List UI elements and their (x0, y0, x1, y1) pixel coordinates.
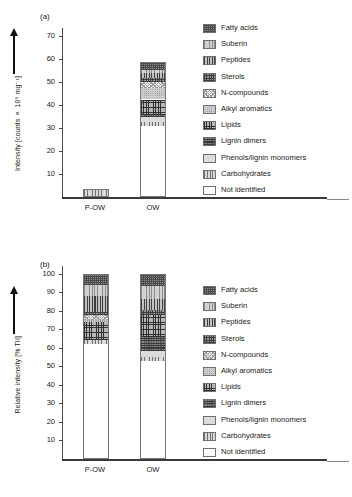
legend-swatch-lipids-icon (203, 383, 216, 392)
legend-swatch-suberin-icon (203, 302, 216, 311)
y-tick-label-b-10: 10 (29, 435, 55, 444)
legend-label-carbohydrates: Carbohydrates (221, 431, 271, 440)
legend-label-n_compounds: N-compounds (221, 88, 268, 97)
legend-label-alkyl_aromatics: Alkyl aromatics (221, 366, 272, 375)
y-tick-b-80 (59, 311, 62, 312)
y-tick-a-30 (59, 128, 62, 129)
y-tick-label-a-30: 30 (29, 123, 55, 132)
y-tick-label-a-60: 60 (29, 54, 55, 63)
legend-label-peptides: Peptides (221, 317, 251, 326)
legend-item-fatty_acids[interactable]: Fatty acids (203, 22, 349, 38)
legend-label-fatty_acids: Fatty acids (221, 23, 258, 32)
legend-a: Fatty acidsSuberinPeptidesSterolsN-compo… (203, 22, 349, 200)
x-tick-label-ow-b: OW (133, 465, 173, 474)
legend-item-lipids[interactable]: Lipids (203, 119, 349, 135)
legend-item-sterols[interactable]: Sterols (203, 71, 349, 87)
legend-b: Fatty acidsSuberinPeptidesSterolsN-compo… (203, 284, 349, 462)
legend-swatch-lignin_dimers-icon (203, 399, 216, 408)
legend-item-carbohydrates[interactable]: Carbohydrates (203, 430, 349, 446)
bar-b-p-ow[interactable] (83, 274, 109, 459)
bar-outline (83, 274, 109, 459)
legend-swatch-fatty_acids-icon (203, 24, 216, 33)
legend-label-carbohydrates: Carbohydrates (221, 169, 271, 178)
y-tick-label-a-50: 50 (29, 77, 55, 86)
legend-label-fatty_acids: Fatty acids (221, 285, 258, 294)
legend-item-n_compounds[interactable]: N-compounds (203, 349, 349, 365)
y-tick-label-a-10: 10 (29, 169, 55, 178)
y-tick-a-70 (59, 36, 62, 37)
legend-swatch-alkyl_aromatics-icon (203, 367, 216, 376)
legend-label-suberin: Suberin (221, 39, 247, 48)
y-tick-label-a-40: 40 (29, 100, 55, 109)
y-tick-b-50 (59, 366, 62, 367)
y-tick-label-a-70: 70 (29, 31, 55, 40)
legend-item-lignin_dimers[interactable]: Lignin dimers (203, 135, 349, 151)
legend-label-peptides: Peptides (221, 55, 251, 64)
legend-swatch-n_compounds-icon (203, 89, 216, 98)
y-tick-label-b-90: 90 (29, 287, 55, 296)
legend-item-suberin[interactable]: Suberin (203, 300, 349, 316)
legend-swatch-carbohydrates-icon (203, 432, 216, 441)
legend-label-sterols: Sterols (221, 334, 245, 343)
legend-item-alkyl_aromatics[interactable]: Alkyl aromatics (203, 103, 349, 119)
y-tick-label-b-80: 80 (29, 306, 55, 315)
legend-item-phenols_lignin_monomers[interactable]: Phenols/lignin monomers (203, 414, 349, 430)
legend-swatch-sterols-icon (203, 335, 216, 344)
legend-item-phenols_lignin_monomers[interactable]: Phenols/lignin monomers (203, 152, 349, 168)
y-tick-a-50 (59, 82, 62, 83)
legend-item-not_identified[interactable]: Not identified (203, 446, 349, 462)
bar-outline (140, 62, 166, 197)
legend-item-lignin_dimers[interactable]: Lignin dimers (203, 397, 349, 413)
y-tick-a-20 (59, 151, 62, 152)
legend-label-n_compounds: N-compounds (221, 350, 268, 359)
y-tick-b-70 (59, 329, 62, 330)
chart-panel-b: (b) Relative intensity [% TII] 102030405… (0, 248, 352, 497)
legend-swatch-lipids-icon (203, 121, 216, 130)
bar-outline (140, 274, 166, 459)
legend-swatch-phenols_lignin_monomers-icon (203, 154, 216, 163)
y-tick-label-b-30: 30 (29, 398, 55, 407)
bar-b-ow[interactable] (140, 274, 166, 459)
legend-swatch-not_identified-icon (203, 186, 216, 195)
y-tick-a-40 (59, 105, 62, 106)
legend-label-lignin_dimers: Lignin dimers (221, 136, 266, 145)
y-tick-b-40 (59, 385, 62, 386)
legend-swatch-carbohydrates-icon (203, 170, 216, 179)
legend-label-not_identified: Not identified (221, 447, 265, 456)
legend-item-alkyl_aromatics[interactable]: Alkyl aromatics (203, 365, 349, 381)
y-tick-a-10 (59, 174, 62, 175)
legend-item-not_identified[interactable]: Not identified (203, 184, 349, 200)
legend-label-suberin: Suberin (221, 301, 247, 310)
bar-a-p-ow[interactable] (83, 189, 109, 197)
legend-item-carbohydrates[interactable]: Carbohydrates (203, 168, 349, 184)
y-tick-label-b-50: 50 (29, 361, 55, 370)
legend-label-sterols: Sterols (221, 72, 245, 81)
y-tick-b-30 (59, 403, 62, 404)
y-tick-b-90 (59, 292, 62, 293)
y-tick-label-b-40: 40 (29, 380, 55, 389)
legend-label-phenols_lignin_monomers: Phenols/lignin monomers (221, 153, 306, 162)
chart-panel-a: (a) Intensity [counts × 10⁵ mg⁻¹] 102030… (0, 0, 352, 248)
legend-item-suberin[interactable]: Suberin (203, 38, 349, 54)
y-tick-b-20 (59, 422, 62, 423)
legend-item-peptides[interactable]: Peptides (203, 54, 349, 70)
legend-item-fatty_acids[interactable]: Fatty acids (203, 284, 349, 300)
legend-swatch-peptides-icon (203, 318, 216, 327)
legend-swatch-fatty_acids-icon (203, 286, 216, 295)
legend-item-sterols[interactable]: Sterols (203, 333, 349, 349)
y-tick-b-60 (59, 348, 62, 349)
y-tick-a-60 (59, 59, 62, 60)
y-tick-label-b-60: 60 (29, 343, 55, 352)
legend-swatch-lignin_dimers-icon (203, 137, 216, 146)
y-axis-line-a (62, 28, 63, 198)
legend-label-not_identified: Not identified (221, 185, 265, 194)
y-tick-b-100 (59, 274, 62, 275)
legend-swatch-alkyl_aromatics-icon (203, 105, 216, 114)
y-tick-label-b-20: 20 (29, 417, 55, 426)
legend-item-peptides[interactable]: Peptides (203, 316, 349, 332)
bar-outline (83, 189, 109, 197)
legend-label-alkyl_aromatics: Alkyl aromatics (221, 104, 272, 113)
legend-item-n_compounds[interactable]: N-compounds (203, 87, 349, 103)
bar-a-ow[interactable] (140, 62, 166, 197)
legend-item-lipids[interactable]: Lipids (203, 381, 349, 397)
